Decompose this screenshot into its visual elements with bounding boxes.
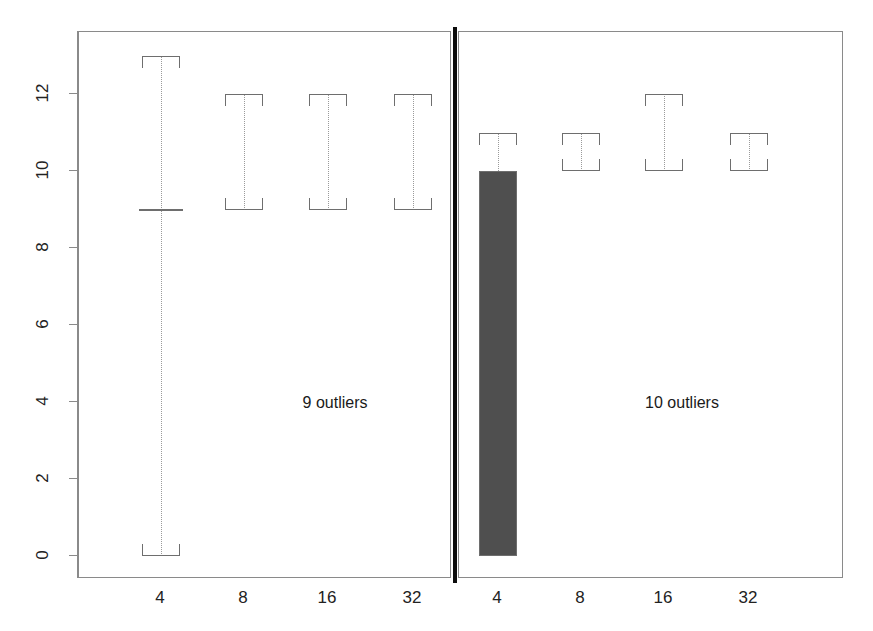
- x-tick-label: 8: [575, 588, 584, 608]
- left-panel: [78, 31, 451, 578]
- right-outlier-annotation: 10 outliers: [645, 394, 719, 412]
- y-tick-mark: [69, 324, 77, 325]
- panel-divider: [453, 27, 457, 583]
- y-tick-label: 12: [33, 78, 53, 108]
- left-panel-plot-area: [79, 32, 450, 577]
- right-panel: [458, 31, 843, 578]
- left-outlier-annotation: 9 outliers: [303, 394, 368, 412]
- boxplot-lower-cap: [394, 198, 432, 210]
- boxplot-right-32: [459, 32, 842, 577]
- y-tick-label: 6: [33, 309, 53, 339]
- x-tick-label: 4: [492, 588, 501, 608]
- y-tick-mark: [69, 555, 77, 556]
- x-tick-label: 32: [403, 588, 422, 608]
- y-tick-label: 10: [33, 155, 53, 185]
- y-tick-label: 8: [33, 232, 53, 262]
- y-tick-label: 2: [33, 463, 53, 493]
- y-tick-mark: [69, 478, 77, 479]
- x-tick-label: 16: [318, 588, 337, 608]
- y-tick-label: 0: [33, 540, 53, 570]
- y-tick-mark: [69, 247, 77, 248]
- y-tick-mark: [69, 170, 77, 171]
- boxplot-upper-cap: [394, 94, 432, 106]
- y-tick-label: 4: [33, 386, 53, 416]
- boxplot-whisker: [413, 94, 414, 210]
- right-panel-plot-area: [459, 32, 842, 577]
- x-tick-label: 32: [739, 588, 758, 608]
- boxplot-left-32: [79, 32, 450, 577]
- boxplot-upper-cap: [730, 133, 768, 145]
- y-tick-mark: [69, 93, 77, 94]
- boxplot-figure: 121086420 481632 481632 9 outliers 10 ou…: [0, 0, 873, 631]
- x-tick-label: 16: [654, 588, 673, 608]
- x-tick-label: 8: [238, 588, 247, 608]
- y-tick-mark: [69, 401, 77, 402]
- x-tick-label: 4: [155, 588, 164, 608]
- boxplot-lower-cap: [730, 159, 768, 171]
